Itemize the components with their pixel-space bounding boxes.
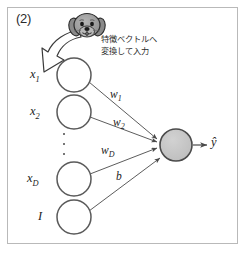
weight-label-wD-sub: D bbox=[109, 150, 115, 159]
output-label-yhat: ŷ bbox=[211, 135, 217, 150]
input-label-bias: I bbox=[38, 209, 42, 224]
output-neuron bbox=[160, 129, 192, 161]
input-node-x1 bbox=[57, 58, 91, 92]
input-label-x2-sub: 2 bbox=[36, 112, 40, 121]
annotation-caption: 特徴ベクトルへ 変換して入力 bbox=[101, 33, 157, 58]
input-node-xD bbox=[57, 162, 91, 196]
weight-label-bias-base: b bbox=[116, 170, 122, 182]
input-label-xD: xD bbox=[27, 171, 39, 188]
weight-label-w1: w1 bbox=[110, 88, 122, 103]
input-label-x1-sub: 1 bbox=[36, 75, 40, 84]
weight-label-wD-base: w bbox=[101, 144, 109, 156]
input-label-xD-sub: D bbox=[33, 179, 39, 188]
weight-label-w1-sub: 1 bbox=[118, 94, 122, 103]
vertical-ellipsis bbox=[62, 133, 66, 155]
input-label-x2: x2 bbox=[30, 104, 40, 121]
weight-label-w2-sub: 2 bbox=[121, 122, 125, 131]
annotation-line-2: 変換して入力 bbox=[101, 45, 157, 57]
ellipsis-dot bbox=[63, 143, 65, 145]
weight-label-w2-base: w bbox=[113, 116, 121, 128]
input-node-bias bbox=[57, 200, 91, 234]
weight-label-wD: wD bbox=[101, 144, 114, 159]
input-node-x2 bbox=[57, 95, 91, 129]
weight-label-w1-base: w bbox=[110, 88, 118, 100]
weight-label-bias: b bbox=[116, 170, 122, 182]
ellipsis-dot bbox=[63, 153, 65, 155]
weight-label-w2: w2 bbox=[113, 116, 125, 131]
figure-root: (2) bbox=[0, 0, 247, 253]
edge-bias-to-output bbox=[89, 158, 160, 211]
ellipsis-dot bbox=[63, 133, 65, 135]
annotation-line-1: 特徴ベクトルへ bbox=[101, 33, 157, 45]
input-label-x1: x1 bbox=[30, 67, 40, 84]
input-label-bias-base: I bbox=[38, 209, 42, 223]
connection-lines bbox=[89, 82, 160, 211]
